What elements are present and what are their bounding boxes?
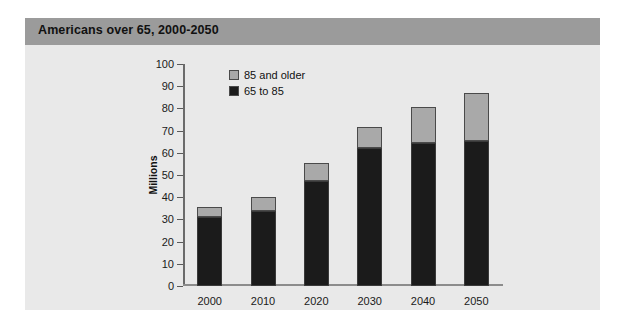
x-tick-label: 2000 <box>197 295 221 307</box>
bar-segment-85-and-older[interactable] <box>251 197 276 210</box>
chart-title: Americans over 65, 2000-2050 <box>38 23 219 37</box>
y-tick-label: 20 <box>162 236 174 248</box>
y-tick-mark <box>177 153 183 154</box>
bar-group[interactable]: 2040 <box>411 107 436 286</box>
bar-segment-65-to-85[interactable] <box>357 148 382 286</box>
y-tick-mark <box>177 219 183 220</box>
y-tick-label: 50 <box>162 169 174 181</box>
chart-figure: Americans over 65, 2000-2050 Millions 01… <box>25 18 600 310</box>
legend-label: 85 and older <box>244 69 305 81</box>
y-tick-mark <box>177 175 183 176</box>
plot-area: Millions 0102030405060708090100 20002010… <box>183 64 503 286</box>
legend-swatch-icon <box>229 70 239 80</box>
bar-segment-65-to-85[interactable] <box>197 217 222 286</box>
x-tick-label: 2030 <box>357 295 381 307</box>
y-tick-mark <box>177 108 183 109</box>
bar-group[interactable]: 2000 <box>197 207 222 286</box>
bar-segment-65-to-85[interactable] <box>251 211 276 286</box>
bar-segment-65-to-85[interactable] <box>304 181 329 286</box>
x-axis-baseline <box>183 284 503 286</box>
bar-segment-65-to-85[interactable] <box>464 141 489 286</box>
bar-group[interactable]: 2010 <box>251 197 276 286</box>
y-tick-mark <box>177 286 183 287</box>
x-tick-label: 2020 <box>304 295 328 307</box>
y-tick-label: 0 <box>168 280 174 292</box>
legend-label: 65 to 85 <box>244 85 284 97</box>
y-tick-label: 80 <box>162 102 174 114</box>
bar-group[interactable]: 2050 <box>464 93 489 286</box>
bar-segment-85-and-older[interactable] <box>464 93 489 141</box>
bar-segment-85-and-older[interactable] <box>411 107 436 143</box>
y-axis-label: Millions <box>147 155 159 194</box>
y-tick-label: 70 <box>162 125 174 137</box>
bar-segment-85-and-older[interactable] <box>304 163 329 181</box>
chart-legend: 85 and older65 to 85 <box>229 68 305 100</box>
bar-group[interactable]: 2020 <box>304 163 329 286</box>
bar-segment-85-and-older[interactable] <box>197 207 222 217</box>
y-tick-mark <box>177 64 183 65</box>
y-tick-label: 90 <box>162 80 174 92</box>
y-tick-label: 60 <box>162 147 174 159</box>
x-tick-label: 2010 <box>251 295 275 307</box>
chart-header-bar: Americans over 65, 2000-2050 <box>25 18 600 45</box>
y-tick-mark <box>177 264 183 265</box>
legend-swatch-icon <box>229 86 239 96</box>
y-tick-label: 40 <box>162 191 174 203</box>
x-tick-label: 2040 <box>411 295 435 307</box>
legend-item[interactable]: 65 to 85 <box>229 84 305 98</box>
y-tick-mark <box>177 197 183 198</box>
bar-segment-85-and-older[interactable] <box>357 127 382 148</box>
x-tick-label: 2050 <box>464 295 488 307</box>
y-tick-mark <box>177 131 183 132</box>
y-tick-label: 100 <box>156 58 174 70</box>
y-tick-label: 30 <box>162 213 174 225</box>
bar-group[interactable]: 2030 <box>357 127 382 286</box>
bar-segment-65-to-85[interactable] <box>411 143 436 286</box>
y-tick-mark <box>177 242 183 243</box>
y-tick-mark <box>177 86 183 87</box>
y-axis-spine <box>183 64 185 286</box>
legend-item[interactable]: 85 and older <box>229 68 305 82</box>
y-tick-label: 10 <box>162 258 174 270</box>
